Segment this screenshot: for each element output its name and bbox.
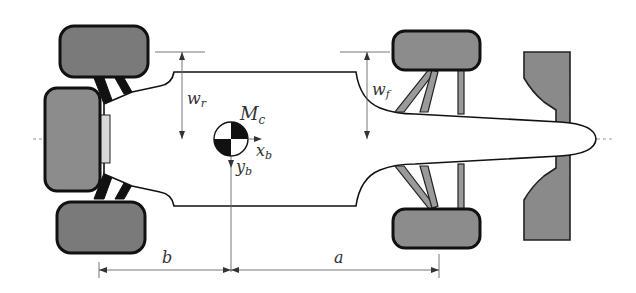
rear-right-tire xyxy=(57,202,145,253)
race-car-diagram: wr wf Mc xb yb b a xyxy=(0,0,636,293)
front-right-tire xyxy=(393,209,480,248)
front-left-tire xyxy=(393,31,480,70)
center-of-mass-symbol xyxy=(214,122,248,156)
rear-left-tire xyxy=(60,26,148,77)
svg-text:b: b xyxy=(162,248,172,267)
rear-center-tire-left xyxy=(45,88,100,191)
svg-text:wf: wf xyxy=(372,80,392,101)
svg-text:a: a xyxy=(334,248,344,267)
chassis-body xyxy=(104,72,596,206)
front-distance-dimension: a xyxy=(231,248,439,278)
